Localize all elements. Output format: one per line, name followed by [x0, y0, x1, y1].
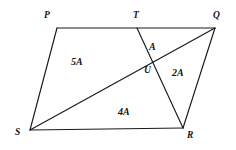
geometry-figure-svg	[0, 0, 236, 150]
vertex-label-t: T	[133, 11, 139, 21]
geometry-diagram: P T Q U S R 5A A 2A 4A	[0, 0, 236, 150]
cevian-t-r	[137, 28, 183, 128]
vertex-label-q: Q	[213, 11, 220, 21]
area-label-4a: 4A	[118, 107, 130, 117]
vertex-label-p: P	[44, 11, 50, 21]
vertex-label-u: U	[144, 66, 151, 76]
vertex-label-s: S	[15, 128, 20, 138]
edge-p-s	[30, 28, 57, 130]
edge-s-r	[30, 128, 183, 130]
area-label-2a: 2A	[172, 68, 184, 78]
area-label-a: A	[149, 42, 156, 52]
area-label-5a: 5A	[71, 57, 83, 67]
vertex-label-r: R	[187, 131, 193, 141]
